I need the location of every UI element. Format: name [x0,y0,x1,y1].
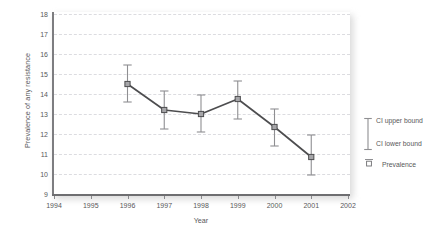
x-tick-label: 1998 [193,202,209,209]
x-tick-mark [311,196,312,199]
x-tick-mark [164,196,165,199]
legend-label-prevalence: Prevalence [382,161,416,168]
y-tick-label: 15 [40,71,48,78]
x-tick-label: 1996 [120,202,136,209]
x-tick-label: 1995 [83,202,99,209]
prevalence-marker-icon [364,158,374,168]
y-tick-label: 14 [40,91,48,98]
x-tick-label: 1997 [156,202,172,209]
ci-errorbar-icon [363,116,373,156]
y-tick-label: 17 [40,31,48,38]
data-series-group [52,12,350,196]
x-tick-mark [54,196,55,199]
y-tick-label: 11 [41,151,48,158]
legend-label-ci-lower: CI lower bound [376,140,422,147]
y-axis-line [52,12,54,196]
chart-legend: CI upper bound CI lower bound Prevalence [360,112,433,174]
y-tick-label: 9 [44,191,48,198]
x-tick-label: 2001 [303,202,319,209]
x-tick-label: 1999 [230,202,246,209]
data-point-marker [162,107,167,112]
x-tick-mark [348,196,349,199]
x-tick-label: 1994 [46,202,62,209]
series-line [128,84,312,157]
x-axis-title: Year [52,216,350,225]
y-tick-label: 16 [40,51,48,58]
y-tick-label: 12 [40,131,48,138]
chart-figure: Prevalence of any resistance 91011121314… [0,0,433,237]
x-tick-label: 2002 [340,202,356,209]
x-tick-mark [201,196,202,199]
data-point-marker [125,81,130,86]
y-axis-title: Prevalence of any resistance [23,16,32,186]
data-point-marker [309,154,314,159]
x-tick-mark [91,196,92,199]
y-tick-label: 18 [40,11,48,18]
plot-shell: 9101112131415161718 19941995199619971998… [52,12,350,196]
x-tick-label: 2000 [267,202,283,209]
data-point-marker [198,111,203,116]
y-tick-label: 10 [40,171,48,178]
x-tick-mark [238,196,239,199]
y-tick-label: 13 [40,111,48,118]
x-tick-mark [128,196,129,199]
legend-label-ci-upper: CI upper bound [376,117,423,124]
x-tick-mark [275,196,276,199]
data-point-marker [272,124,277,129]
data-point-marker [235,96,240,101]
